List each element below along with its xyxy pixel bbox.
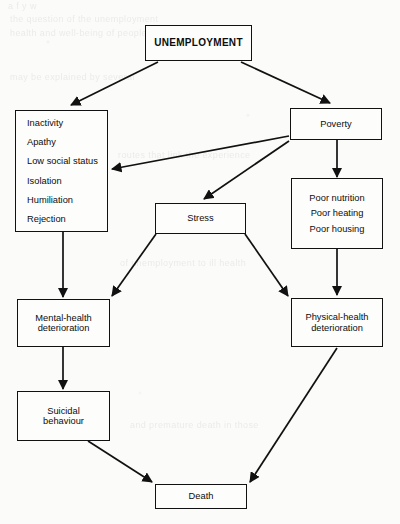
node-stress[interactable]: Stress <box>155 203 246 234</box>
node-suicidal-behaviour[interactable]: Suicidal behaviour <box>17 391 110 441</box>
node-death[interactable]: Death <box>155 484 247 509</box>
material-item-poor-nutrition: Poor nutrition <box>309 191 364 206</box>
psychosocial-item-isolation: Isolation <box>27 174 62 187</box>
psychosocial-item-inactivity: Inactivity <box>27 116 63 129</box>
psychosocial-item-rejection: Rejection <box>27 213 66 226</box>
node-unemployment[interactable]: UNEMPLOYMENT <box>145 25 252 61</box>
node-unemployment-label: UNEMPLOYMENT <box>154 38 243 49</box>
psychosocial-item-low-social-status: Low social status <box>27 155 98 168</box>
diagram-page: a f y w the question of the unemployment… <box>0 0 400 524</box>
node-physical-health-deterioration[interactable]: Physical-health deterioration <box>291 298 383 347</box>
node-poverty-label: Poverty <box>320 119 352 129</box>
psychosocial-item-apathy: Apathy <box>27 135 56 148</box>
suicidal-behaviour-line-2: behaviour <box>43 416 84 426</box>
mental-health-line-1: Mental-health <box>35 313 91 323</box>
node-material-deprivation[interactable]: Poor nutrition Poor heating Poor housing <box>291 178 383 249</box>
psychosocial-item-humiliation: Humiliation <box>27 194 73 207</box>
material-item-poor-heating: Poor heating <box>311 206 364 221</box>
suicidal-behaviour-line-1: Suicidal <box>47 406 80 416</box>
edge-poverty-to-psychosocial <box>112 136 289 169</box>
node-death-label: Death <box>189 491 214 501</box>
physical-health-line-1: Physical-health <box>305 312 368 322</box>
node-mental-health-deterioration[interactable]: Mental-health deterioration <box>17 299 110 347</box>
edge-unemployment-to-psychosocial <box>71 62 158 105</box>
node-stress-label: Stress <box>187 213 213 223</box>
node-poverty[interactable]: Poverty <box>290 108 382 140</box>
edge-unemployment-to-poverty <box>241 62 330 103</box>
physical-health-line-2: deterioration <box>311 323 363 333</box>
edge-stress-to-physical <box>245 234 288 296</box>
mental-health-line-2: deterioration <box>38 323 90 333</box>
edge-suicide-to-death <box>88 441 152 482</box>
edge-physical-to-death <box>250 348 337 482</box>
node-psychosocial-effects[interactable]: Inactivity Apathy Low social status Isol… <box>15 110 108 232</box>
flowchart-connectors <box>0 0 400 524</box>
material-item-poor-housing: Poor housing <box>310 221 365 236</box>
edge-stress-to-mental <box>112 234 156 296</box>
